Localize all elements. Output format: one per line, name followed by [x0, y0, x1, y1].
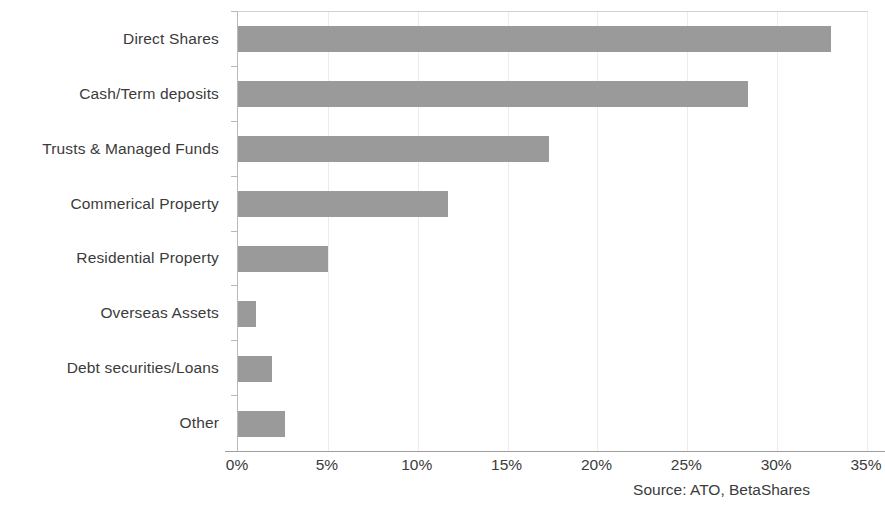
- bar-slot: [238, 341, 867, 396]
- y-axis-label: Direct Shares: [123, 30, 219, 47]
- bar: [238, 136, 549, 162]
- bar: [238, 356, 272, 382]
- bar-slot: [238, 12, 867, 67]
- x-tick-label: 15%: [491, 456, 522, 474]
- y-axis-label: Trusts & Managed Funds: [42, 140, 219, 157]
- bar-slot: [238, 67, 867, 122]
- y-axis-label-slot: Cash/Term deposits: [0, 66, 228, 121]
- y-axis-label-slot: Overseas Assets: [0, 285, 228, 340]
- bar-chart: Direct SharesCash/Term depositsTrusts & …: [0, 0, 885, 506]
- bar: [238, 81, 748, 107]
- y-axis-label: Commerical Property: [70, 195, 219, 212]
- x-axis-tick-labels: 0%5%10%15%20%25%30%35%: [237, 456, 866, 480]
- bar-slot: [238, 286, 867, 341]
- y-axis-label-slot: Other: [0, 395, 228, 450]
- y-axis-label-slot: Debt securities/Loans: [0, 340, 228, 395]
- y-axis-label-slot: Trusts & Managed Funds: [0, 121, 228, 176]
- bar-series: [238, 12, 867, 451]
- bar-slot: [238, 177, 867, 232]
- bar: [238, 246, 328, 272]
- x-tick-label: 25%: [671, 456, 702, 474]
- bar: [238, 411, 285, 437]
- x-tick-label: 10%: [401, 456, 432, 474]
- y-axis-label-slot: Residential Property: [0, 231, 228, 286]
- bar-slot: [238, 232, 867, 287]
- y-axis-label: Residential Property: [76, 249, 219, 266]
- y-axis-label-slot: Direct Shares: [0, 11, 228, 66]
- bar-slot: [238, 396, 867, 451]
- y-axis-label: Cash/Term deposits: [79, 85, 219, 102]
- y-axis-category-labels: Direct SharesCash/Term depositsTrusts & …: [0, 11, 228, 450]
- plot-area: [237, 11, 868, 452]
- x-tick-label: 5%: [316, 456, 338, 474]
- x-axis-line: [225, 451, 885, 452]
- y-axis-label: Debt securities/Loans: [67, 359, 219, 376]
- gridline: [867, 12, 868, 451]
- bar: [238, 26, 831, 52]
- y-axis-label-slot: Commerical Property: [0, 176, 228, 231]
- y-axis-label: Other: [179, 414, 219, 431]
- bar: [238, 191, 448, 217]
- bar: [238, 301, 256, 327]
- x-tick-label: 35%: [850, 456, 881, 474]
- x-tick-label: 0%: [226, 456, 248, 474]
- x-tick-label: 20%: [581, 456, 612, 474]
- y-axis-label: Overseas Assets: [100, 304, 219, 321]
- bar-slot: [238, 122, 867, 177]
- source-note: Source: ATO, BetaShares: [0, 481, 810, 499]
- x-tick-label: 30%: [761, 456, 792, 474]
